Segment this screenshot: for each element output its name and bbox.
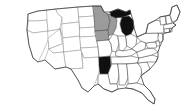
state-missouri[interactable]	[97, 40, 112, 57]
us-choropleth-map-figure	[0, 0, 181, 110]
state-nebraska[interactable]	[80, 27, 97, 37]
state-tennessee[interactable]	[111, 56, 139, 64]
state-washington[interactable]	[28, 10, 48, 21]
state-north-dakota[interactable]	[78, 6, 94, 17]
state-california[interactable]	[27, 30, 49, 62]
state-indiana[interactable]	[118, 36, 127, 51]
state-minnesota[interactable]	[93, 6, 110, 31]
state-new-mexico[interactable]	[64, 50, 83, 69]
state-michigan-lower-peninsula[interactable]	[120, 16, 134, 36]
state-iowa-shaded[interactable]	[95, 30, 109, 41]
state-oklahoma[interactable]	[81, 47, 99, 58]
state-florida[interactable]	[126, 83, 155, 104]
states-group-west	[27, 6, 100, 92]
state-wyoming[interactable]	[62, 22, 80, 38]
us-map-svg	[0, 0, 181, 110]
state-vermont[interactable]	[160, 16, 166, 25]
state-oregon[interactable]	[27, 20, 48, 33]
state-colorado[interactable]	[63, 36, 81, 52]
state-kansas[interactable]	[80, 36, 98, 48]
state-south-dakota[interactable]	[79, 16, 95, 28]
state-alabama[interactable]	[118, 64, 128, 85]
